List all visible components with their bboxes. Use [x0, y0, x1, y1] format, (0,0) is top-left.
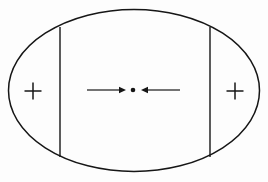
diagram-canvas: Ellipse with two vertical chords, plus m… [0, 0, 268, 182]
right-arrow-pointing-left [141, 87, 180, 93]
left-plus-marker [25, 83, 42, 100]
left-arrow-pointing-right [87, 87, 126, 93]
arrow-head-icon [119, 87, 126, 93]
diagram-svg: Ellipse with two vertical chords, plus m… [0, 0, 268, 182]
right-plus-marker [227, 83, 244, 100]
arrow-head-icon [141, 87, 148, 93]
center-point-dot [131, 88, 136, 93]
